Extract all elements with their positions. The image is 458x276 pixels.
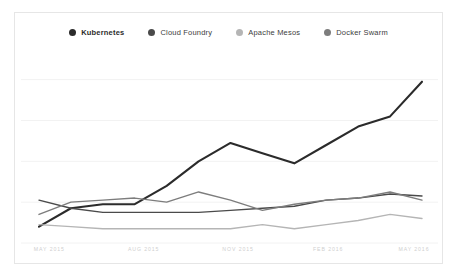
chart-gridlines — [21, 80, 438, 243]
chart-card: Kubernetes Cloud Foundry Apache Mesos Do… — [14, 12, 443, 264]
legend-label-cloud-foundry: Cloud Foundry — [160, 28, 212, 37]
legend-label-docker-swarm: Docker Swarm — [336, 28, 388, 37]
chart-legend: Kubernetes Cloud Foundry Apache Mesos Do… — [15, 22, 442, 42]
x-tick-label-2: NOV 2015 — [222, 246, 253, 252]
chart-series-lines — [39, 82, 422, 229]
x-tick-label-1: AUG 2015 — [128, 246, 159, 252]
plot-area — [15, 43, 444, 265]
legend-item-docker-swarm[interactable]: Docker Swarm — [324, 28, 388, 37]
legend-dot-docker-swarm — [324, 29, 331, 36]
legend-item-cloud-foundry[interactable]: Cloud Foundry — [148, 28, 212, 37]
x-tick-label-4: MAY 2016 — [398, 246, 429, 252]
legend-dot-apache-mesos — [236, 29, 243, 36]
x-axis-tick-labels: MAY 2015 AUG 2015 NOV 2015 FEB 2016 MAY … — [15, 246, 444, 258]
legend-label-apache-mesos: Apache Mesos — [248, 28, 300, 37]
legend-label-kubernetes: Kubernetes — [81, 28, 124, 37]
legend-dot-cloud-foundry — [148, 29, 155, 36]
legend-item-apache-mesos[interactable]: Apache Mesos — [236, 28, 300, 37]
x-tick-label-3: FEB 2016 — [313, 246, 343, 252]
x-tick-label-0: MAY 2015 — [34, 246, 65, 252]
legend-item-kubernetes[interactable]: Kubernetes — [69, 28, 124, 37]
legend-dot-kubernetes — [69, 29, 76, 36]
series-line-apache-mesos — [39, 214, 422, 228]
series-line-kubernetes — [39, 82, 422, 227]
line-chart-svg — [15, 43, 444, 265]
